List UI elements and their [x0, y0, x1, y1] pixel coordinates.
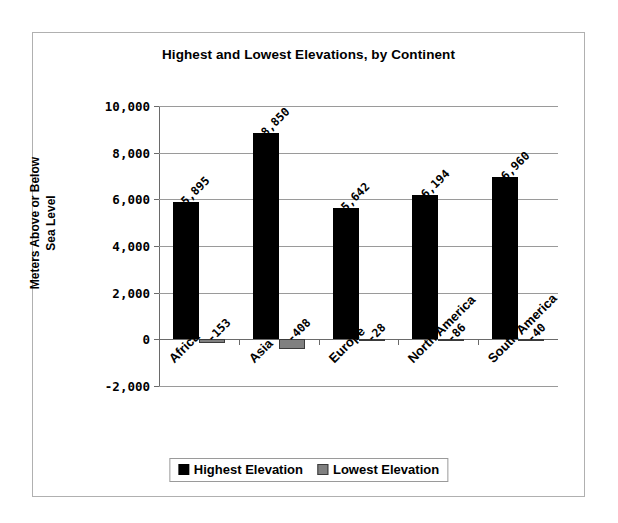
bar-africa-highest: [173, 202, 199, 340]
y-tick-mark-2000: [154, 293, 159, 294]
gridline-8000: [159, 153, 558, 154]
legend-label-lowest: Lowest Elevation: [333, 462, 439, 477]
y-tick-label-6000: 6,000: [112, 192, 150, 207]
y-tick-mark--2000: [154, 386, 159, 387]
category-tick-4: [478, 339, 479, 345]
y-axis-title-line-1: Meters Above or Below: [27, 133, 43, 313]
y-tick-label-2000: 2,000: [112, 285, 150, 300]
category-tick-2: [319, 339, 320, 345]
y-tick-mark-0: [154, 339, 159, 340]
bar-south-america-highest: [492, 177, 518, 339]
category-tick-1: [239, 339, 240, 345]
y-tick-mark-6000: [154, 199, 159, 200]
legend-label-highest: Highest Elevation: [194, 462, 303, 477]
chart-legend: Highest Elevation Lowest Elevation: [169, 458, 448, 482]
y-tick-label--2000: -2,000: [105, 379, 150, 394]
y-axis-title: Meters Above or Below Sea Level: [27, 133, 61, 313]
bar-north-america-highest: [412, 195, 438, 340]
gridline-10000: [159, 106, 558, 107]
y-tick-mark-10000: [154, 106, 159, 107]
y-tick-mark-8000: [154, 153, 159, 154]
bar-asia-highest: [253, 133, 279, 340]
legend-swatch-highest-icon: [178, 464, 189, 475]
chart-frame: Highest and Lowest Elevations, by Contin…: [32, 32, 585, 497]
gridline--2000: [159, 386, 558, 387]
category-tick-3: [398, 339, 399, 345]
legend-item-lowest-elevation: Lowest Elevation: [317, 462, 439, 477]
y-tick-label-0: 0: [142, 332, 150, 347]
legend-swatch-lowest-icon: [317, 464, 328, 475]
legend-item-highest-elevation: Highest Elevation: [178, 462, 303, 477]
y-tick-label-4000: 4,000: [112, 239, 150, 254]
y-tick-mark-4000: [154, 246, 159, 247]
chart-title: Highest and Lowest Elevations, by Contin…: [33, 47, 584, 62]
y-tick-label-8000: 8,000: [112, 145, 150, 160]
plot-area: 10,0008,0006,0004,0002,0000-2,000 5,895-…: [159, 106, 558, 386]
category-label-asia: Asia: [245, 336, 275, 366]
y-tick-label-10000: 10,000: [105, 99, 150, 114]
y-axis-title-line-2: Sea Level: [43, 133, 59, 313]
bar-europe-highest: [333, 208, 359, 340]
